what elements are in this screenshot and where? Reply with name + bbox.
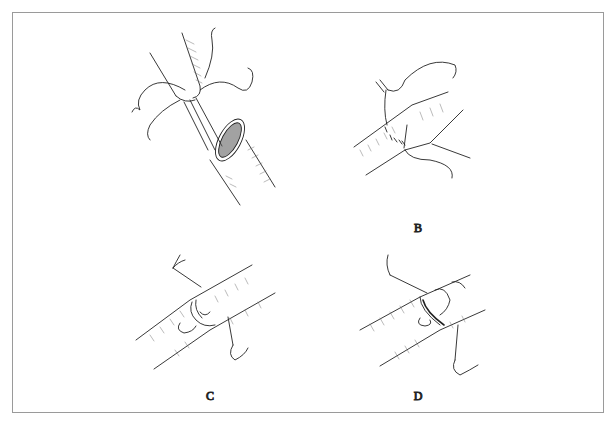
- illustration: A B C: [0, 0, 616, 425]
- panel-c-label: C: [206, 389, 214, 403]
- panel-d-label: D: [414, 389, 423, 403]
- panel-c-drawing: [136, 255, 275, 369]
- panel-b-label: B: [414, 221, 422, 235]
- panel-b-drawing: [354, 62, 470, 178]
- panel-a-drawing: [132, 28, 275, 205]
- panel-d-drawing: [360, 255, 485, 375]
